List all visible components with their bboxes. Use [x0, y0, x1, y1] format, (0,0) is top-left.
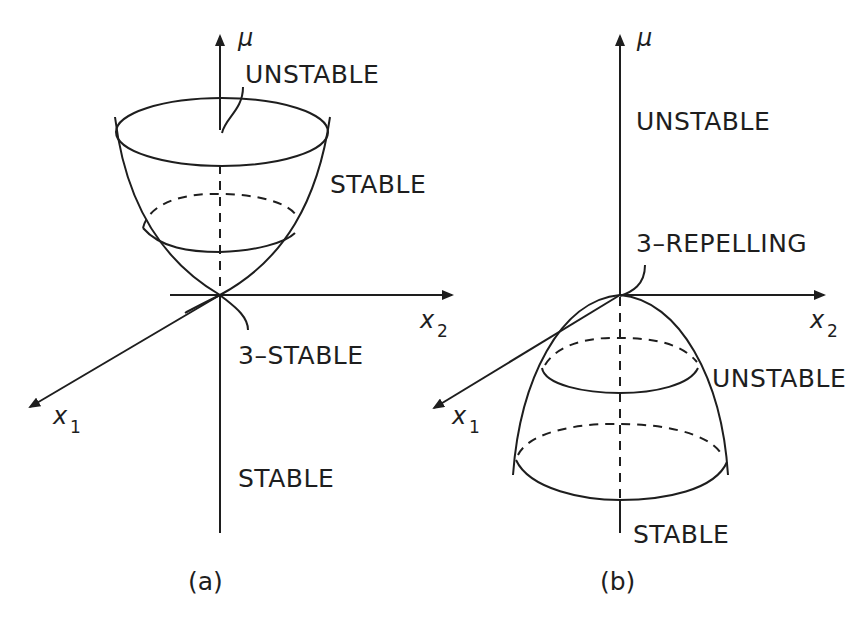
x1-label-b: x 1 [451, 402, 480, 437]
unstable-pointer [222, 87, 243, 133]
three-repelling-pointer [620, 265, 645, 296]
x1-axis [30, 295, 220, 407]
svg-text:1: 1 [469, 417, 480, 437]
x2-label-a: x 2 [419, 306, 448, 341]
label-stable-lower-a: STABLE [238, 464, 334, 493]
label-stable-lower-b: STABLE [633, 520, 729, 549]
three-stable-curve [220, 295, 248, 330]
svg-text:x: x [419, 306, 435, 334]
x1-label-a: x 1 [52, 402, 81, 437]
label-unstable-a: UNSTABLE [245, 60, 379, 89]
x1-cross-curve [185, 295, 220, 313]
label-3-repelling: 3–REPELLING [636, 229, 807, 258]
x2-label-b: x 2 [809, 306, 838, 341]
mu-label-b: μ [636, 24, 652, 52]
panel-b: μ UNSTABLE 3–REPELLING UNSTABLE STABLE x… [434, 24, 846, 596]
bowl-side-right [220, 117, 330, 295]
caption-a: (a) [188, 567, 223, 596]
dome-lower-rim-front [516, 460, 727, 500]
label-unstable-upper-b: UNSTABLE [636, 107, 770, 136]
svg-text:2: 2 [437, 321, 448, 341]
svg-text:2: 2 [827, 321, 838, 341]
label-3-stable: 3–STABLE [238, 341, 364, 370]
label-stable-surface-a: STABLE [330, 170, 426, 199]
svg-text:x: x [451, 402, 467, 430]
svg-text:x: x [52, 402, 68, 430]
label-unstable-surface-b: UNSTABLE [712, 364, 846, 393]
svg-text:1: 1 [70, 417, 81, 437]
bifurcation-figure: μ UNSTABLE STABLE 3–STABLE STABLE x 2 x … [0, 0, 867, 626]
svg-text:x: x [809, 306, 825, 334]
caption-b: (b) [600, 567, 635, 596]
bowl-side-left [115, 117, 220, 295]
panel-a: μ UNSTABLE STABLE 3–STABLE STABLE x 2 x … [30, 24, 452, 596]
mu-label-a: μ [237, 24, 253, 52]
dome-side-left [513, 295, 620, 475]
